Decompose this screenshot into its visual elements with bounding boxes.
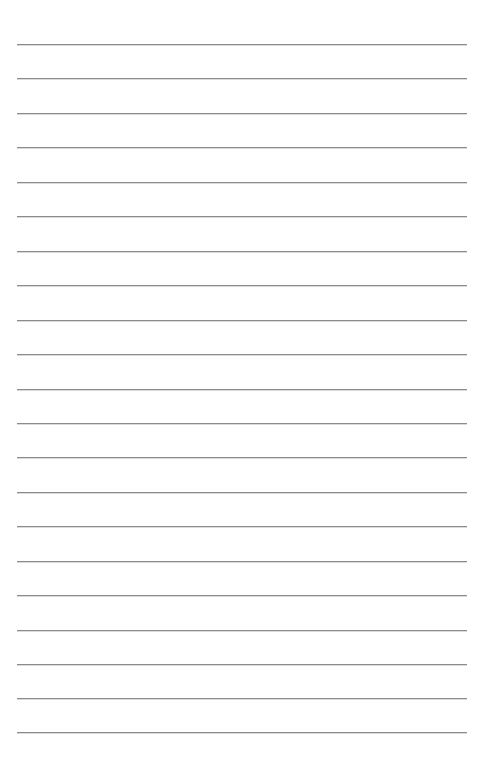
- ruled-line: [17, 354, 467, 355]
- ruled-line: [17, 664, 467, 665]
- ruled-line: [17, 113, 467, 114]
- ruled-line: [17, 389, 467, 390]
- ruled-line: [17, 78, 467, 79]
- ruled-line: [17, 285, 467, 286]
- ruled-line: [17, 457, 467, 458]
- ruled-line: [17, 630, 467, 631]
- ruled-line: [17, 320, 467, 321]
- ruled-line: [17, 251, 467, 252]
- ruled-line: [17, 595, 467, 596]
- ruled-line: [17, 216, 467, 217]
- ruled-line: [17, 526, 467, 527]
- ruled-line: [17, 492, 467, 493]
- lined-paper-page: [0, 0, 490, 770]
- ruled-line: [17, 147, 467, 148]
- ruled-line: [17, 561, 467, 562]
- ruled-line: [17, 182, 467, 183]
- ruled-line: [17, 732, 467, 733]
- ruled-line: [17, 423, 467, 424]
- ruled-lines-group: [0, 0, 490, 770]
- ruled-line: [17, 44, 467, 45]
- ruled-line: [17, 698, 467, 699]
